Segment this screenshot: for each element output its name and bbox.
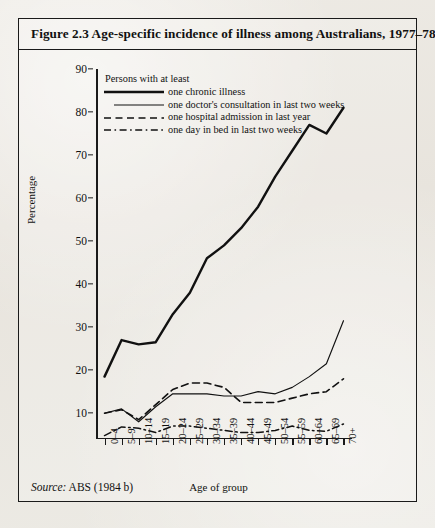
y-tick-label: 70 [76,149,88,161]
y-tick-mark [88,154,93,155]
y-tick-mark [88,111,93,112]
y-tick-mark [88,370,93,371]
legend-swatch-dashed-icon [104,113,166,123]
y-tick-mark [88,283,93,284]
y-tick-label: 20 [76,364,88,376]
x-tick-label: 10–14 [143,418,154,444]
legend-item: one doctor's consultation in last two we… [104,99,336,112]
y-tick-mark [88,326,93,327]
x-tick-label: 50–54 [279,418,290,444]
source-label: Source: [31,481,66,493]
y-tick-label: 80 [76,106,88,118]
legend-item: one chronic illness [104,86,336,99]
y-tick-label: 40 [76,278,88,290]
figure-title: Figure 2.3 Age-specific incidence of ill… [31,26,409,42]
series-line-0 [105,108,344,377]
x-tick-label: 45–49 [262,418,273,444]
y-tick-mark [88,197,93,198]
series-line-1 [105,321,344,422]
y-tick-label: 30 [76,321,88,333]
x-tick-label: 70+ [347,428,358,444]
y-tick-label: 10 [76,407,88,419]
y-axis-ticks: 102030405060708090 [59,49,93,449]
legend-item: one day in bed in last two weeks [104,124,336,137]
source-note: Source: ABS (1984 b) [31,481,133,493]
x-tick-label: 60–64 [313,418,324,444]
x-tick-label: 40–44 [245,418,256,444]
x-axis-tick-labels: 0–45–910–1415–1920–2425–2930–3435–3940–4… [96,444,352,504]
x-tick-label: 35–39 [228,418,239,444]
plot-area: Percentage 102030405060708090 0–45–910–1… [19,49,418,503]
x-tick-label: 20–24 [177,418,188,444]
y-axis-label: Percentage [25,176,37,224]
legend-swatch-dash-dot-icon [104,125,166,135]
figure-box: Figure 2.3 Age-specific incidence of ill… [18,18,417,502]
source-value: ABS (1984 b) [69,481,134,493]
x-tick-label: 55–59 [296,418,307,444]
legend-label: one hospital admission in last year [168,111,310,124]
y-tick-mark [88,240,93,241]
x-tick-label: 15–19 [160,418,171,444]
legend-heading: Persons with at least [105,73,336,86]
y-tick-label: 60 [76,192,88,204]
y-tick-mark [88,413,93,414]
legend-swatch-thick-solid-icon [104,87,166,97]
y-tick-label: 90 [76,63,88,75]
legend-rows: one chronic illnessone doctor's consulta… [104,86,336,136]
legend-item: one hospital admission in last year [104,111,336,124]
series-line-3 [105,424,344,436]
legend: Persons with at least one chronic illnes… [104,73,336,136]
legend-label: one doctor's consultation in last two we… [168,99,344,112]
series-line-2 [105,379,344,420]
x-tick-label: 5–9 [126,428,137,444]
scanned-page: Figure 2.3 Age-specific incidence of ill… [0,0,435,528]
x-tick-label: 30–34 [211,418,222,444]
x-tick-label: 25–29 [194,418,205,444]
y-tick-label: 50 [76,235,88,247]
legend-swatch-thin-solid-icon [104,100,166,110]
legend-label: one day in bed in last two weeks [168,124,302,137]
y-tick-mark [88,68,93,69]
x-tick-label: 0–4 [109,428,120,444]
legend-label: one chronic illness [168,86,245,99]
x-tick-label: 65–69 [330,418,341,444]
